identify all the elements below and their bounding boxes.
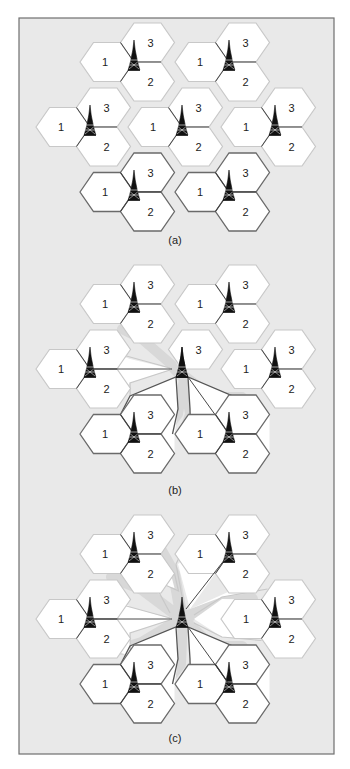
sector-label: 3 <box>103 102 109 114</box>
sector-label: 1 <box>197 298 203 310</box>
cell-site-diagram: 132132132132132132132 (a) 13213213231321… <box>0 0 350 769</box>
sector-label: 3 <box>288 344 294 356</box>
sector-label: 1 <box>150 121 156 133</box>
sector-label: 3 <box>103 344 109 356</box>
sector-label: 3 <box>195 344 201 356</box>
sector-label: 2 <box>147 206 153 218</box>
sector-label: 1 <box>243 363 249 375</box>
sector-label: 1 <box>197 428 203 440</box>
sector-label: 2 <box>195 141 201 153</box>
sector-label: 3 <box>242 529 248 541</box>
sector-label: 2 <box>242 76 248 88</box>
sector-label: 1 <box>102 186 108 198</box>
sector-label: 2 <box>147 448 153 460</box>
sector-label: 2 <box>242 206 248 218</box>
sector-label: 1 <box>243 121 249 133</box>
sector-label: 3 <box>242 37 248 49</box>
sector-label: 2 <box>103 633 109 645</box>
sector-label: 2 <box>103 141 109 153</box>
sector-label: 3 <box>147 529 153 541</box>
sector-label: 2 <box>147 568 153 580</box>
sector-label: 3 <box>147 409 153 421</box>
sector-label: 3 <box>242 167 248 179</box>
sector-label: 3 <box>147 167 153 179</box>
caption-c: (c) <box>169 732 182 744</box>
sector-label: 3 <box>242 409 248 421</box>
sector-label: 3 <box>288 594 294 606</box>
sector-label: 2 <box>147 698 153 710</box>
sector-label: 2 <box>288 633 294 645</box>
sector-label: 2 <box>103 383 109 395</box>
sector-label: 1 <box>197 548 203 560</box>
caption-a: (a) <box>168 234 181 246</box>
sector-label: 2 <box>242 318 248 330</box>
sector-label: 2 <box>242 568 248 580</box>
sector-label: 3 <box>147 659 153 671</box>
sector-label: 3 <box>242 659 248 671</box>
sector-label: 1 <box>197 678 203 690</box>
sector-label: 2 <box>147 76 153 88</box>
sector-label: 2 <box>242 448 248 460</box>
sector-label: 3 <box>103 594 109 606</box>
sector-label: 2 <box>288 383 294 395</box>
sector-label: 1 <box>58 613 64 625</box>
sector-label: 1 <box>197 56 203 68</box>
sector-label: 3 <box>147 37 153 49</box>
sector-label: 2 <box>288 141 294 153</box>
sector-label: 1 <box>58 121 64 133</box>
sector-label: 3 <box>242 279 248 291</box>
sector-label: 1 <box>102 56 108 68</box>
sector-label: 1 <box>102 298 108 310</box>
sector-label: 2 <box>242 698 248 710</box>
sector-label: 1 <box>197 186 203 198</box>
sector-label: 3 <box>288 102 294 114</box>
caption-b: (b) <box>168 484 181 496</box>
sector-label: 1 <box>58 363 64 375</box>
sector-label: 1 <box>243 613 249 625</box>
sector-label: 3 <box>147 279 153 291</box>
sector-label: 1 <box>102 548 108 560</box>
sector-label: 1 <box>102 678 108 690</box>
sector-label: 2 <box>147 318 153 330</box>
sector-label: 3 <box>195 102 201 114</box>
sector-label: 1 <box>102 428 108 440</box>
